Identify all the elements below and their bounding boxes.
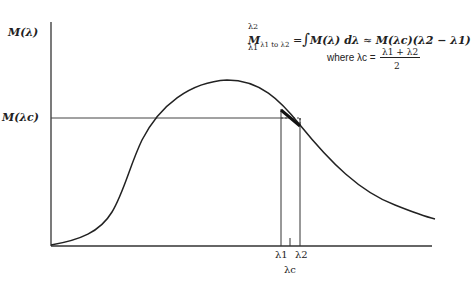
mlc-label: M(λc) [2, 111, 39, 124]
fraction-denominator: 2 [394, 61, 400, 71]
where-text: where λc = [327, 52, 376, 63]
lambda-c-label: λc [284, 264, 296, 275]
lambda2-label: λ2 [295, 249, 308, 260]
lambda1-label: λ1 [275, 249, 288, 260]
spectral-curve [51, 80, 435, 245]
equation: Mλ1 to λ2 =∫M(λ) dλ ≈ M(λc)(λ2 − λ1) [248, 30, 471, 49]
fraction-numerator: λ1 + λ2 [380, 47, 420, 58]
y-axis-label: M(λ) [8, 26, 38, 39]
